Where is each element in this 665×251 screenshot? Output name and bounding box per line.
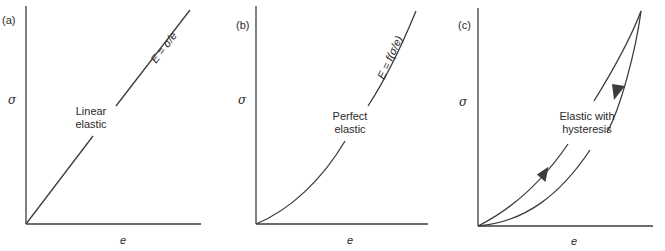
panel-b-label-line2: elastic: [334, 123, 366, 135]
panel-b-x-label: e: [347, 234, 353, 246]
panel-b-label-line1: Perfect: [333, 110, 368, 122]
panel-c-label-line2: hysteresis: [562, 123, 612, 135]
panel-a-x-label: e: [120, 234, 126, 246]
panel-c-tag: (c): [458, 19, 471, 31]
panel-a: (a) σ e Linear elastic E = σ/e: [2, 6, 201, 246]
panel-c-label-line1: Elastic with: [559, 110, 614, 122]
panel-a-y-label: σ: [8, 93, 17, 107]
panel-c-y-label: σ: [459, 95, 468, 109]
panel-b-tag: (b): [236, 19, 249, 31]
panel-b-equation: E = f(σ/e): [375, 34, 405, 81]
panel-b: (b) σ e Perfect elastic E = f(σ/e): [236, 6, 428, 246]
panel-b-y-label: σ: [238, 93, 247, 107]
panel-c-x-label: e: [571, 235, 577, 247]
panel-c: (c) σ e Elastic with hysteresis: [458, 8, 653, 247]
panel-c-unloading-curve-lower: [478, 150, 590, 226]
panel-a-line-lower: [26, 136, 93, 224]
panel-b-curve-lower: [256, 141, 345, 224]
figure-canvas: (a) σ e Linear elastic E = σ/e (b) σ e P…: [0, 0, 665, 251]
panel-a-label-line1: Linear: [76, 105, 107, 117]
panel-a-tag: (a): [2, 14, 15, 26]
panel-a-label-line2: elastic: [75, 118, 107, 130]
panel-a-equation: E = σ/e: [148, 29, 179, 65]
